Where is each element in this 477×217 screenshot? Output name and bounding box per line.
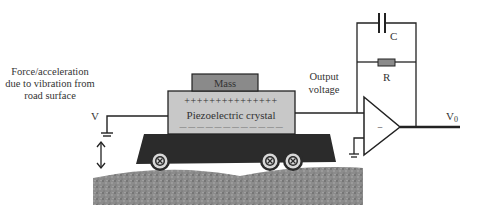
wheel-rear-1 (260, 151, 280, 171)
wheel-rear-2 (283, 151, 303, 171)
positive-charges: +++++++++++++++ (184, 95, 278, 106)
crystal-label: Piezoelectric crystal (187, 109, 276, 121)
output-voltage-line1: Output (309, 71, 338, 82)
capacitor-label: C (390, 30, 397, 42)
output-v: V (446, 110, 454, 122)
output-voltage-symbol: V0 (446, 110, 458, 124)
input-ground-icon (101, 116, 168, 136)
resistor-icon (378, 59, 395, 66)
opamp-inverting-sign: − (377, 122, 383, 133)
force-label-line1: Force/acceleration (11, 66, 89, 77)
road-surface (93, 167, 363, 205)
capacitor-icon (379, 13, 385, 33)
output-subscript: 0 (454, 115, 458, 124)
force-label-line2: due to vibration from (5, 78, 95, 89)
force-label-line3: road surface (24, 90, 76, 101)
output-voltage-line2: voltage (309, 84, 340, 95)
resistor-label: R (383, 71, 391, 83)
diagram-canvas: Force/acceleration due to vibration from… (0, 0, 477, 217)
vibration-arrow-icon (97, 142, 105, 168)
input-voltage-label: V (91, 110, 99, 122)
mass-label: Mass (214, 78, 236, 89)
opamp-ground-icon (349, 138, 364, 157)
negative-charges: — — — — — — — — — — — — (178, 123, 283, 131)
force-label: Force/acceleration due to vibration from… (5, 66, 95, 101)
wheel-front (150, 151, 170, 171)
